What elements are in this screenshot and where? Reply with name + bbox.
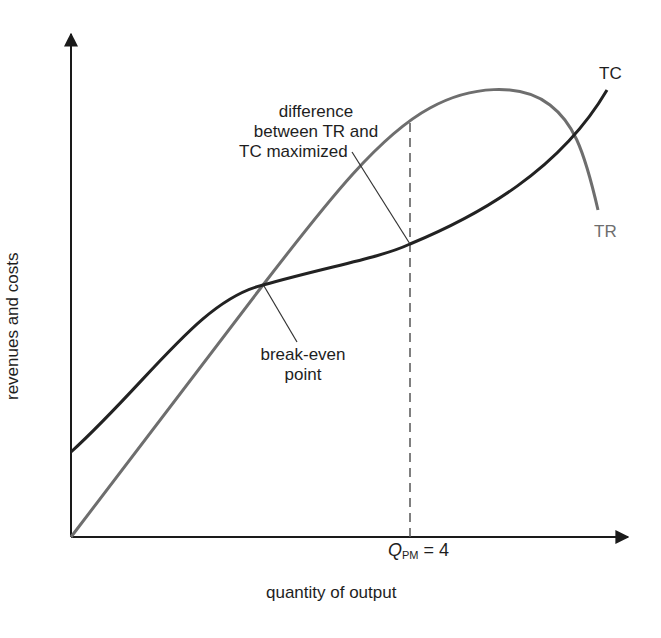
qpm-value: = 4 (419, 540, 450, 560)
annotation-breakeven-line2: point (248, 365, 358, 385)
diff-leader-line (352, 152, 410, 244)
qpm-subscript: PM (402, 549, 419, 561)
annotation-diff-line3: TC maximized (239, 142, 348, 162)
annotation-diff-line1: difference (246, 102, 386, 122)
qpm-q: Q (388, 540, 402, 560)
y-axis-label: revenues and costs (3, 253, 23, 400)
annotation-breakeven-line1: break-even (248, 345, 358, 365)
annotation-diff-line2: between TR and (236, 122, 396, 142)
tr-label: TR (594, 222, 617, 242)
chart-canvas (0, 0, 661, 638)
x-axis-label: quantity of output (266, 583, 396, 603)
breakeven-leader-line (264, 286, 297, 342)
tc-label: TC (599, 64, 622, 84)
qpm-tick-label: QPM = 4 (388, 540, 449, 561)
